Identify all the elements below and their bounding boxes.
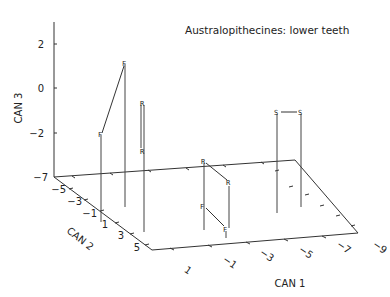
marker-s: S: [274, 109, 278, 117]
can2-tick-label: 5: [134, 242, 140, 253]
can3-tick-label: −2: [29, 128, 44, 139]
can3-axis-label: CAN 3: [13, 93, 24, 124]
chart-canvas: Australopithecines: lower teeth 2 0 −2 −…: [0, 0, 390, 297]
marker-r: R: [201, 158, 206, 166]
group-connector: [102, 66, 124, 133]
floor-right-edge: [295, 160, 358, 233]
floor-front-edge: [152, 233, 358, 250]
can1-tick-label: −5: [297, 243, 315, 260]
can1-tick-label: −9: [371, 238, 389, 255]
can1-tick-label: 1: [182, 264, 194, 277]
can2-tick-label: −3: [67, 196, 82, 207]
can2-axis-label: CAN 2: [65, 225, 96, 253]
can3-tick-label: 0: [38, 83, 44, 94]
can3-tick-label: −7: [33, 172, 48, 183]
can2-tick-label: −5: [51, 184, 66, 195]
chart-title: Australopithecines: lower teeth: [185, 24, 349, 36]
marker-f: F: [223, 226, 227, 234]
can1-tick-label: −1: [221, 253, 239, 270]
marker-f: F: [98, 131, 102, 139]
right-edge-ticks: [275, 170, 355, 226]
group-connector: [206, 208, 224, 226]
can1-tick-label: −3: [258, 246, 276, 263]
can1-axis-label: CAN 1: [275, 278, 306, 289]
floor-back-edge: [54, 160, 295, 177]
can3-tick-label: 2: [38, 39, 44, 50]
marker-f: F: [122, 60, 126, 68]
can2-tick-label: −1: [82, 208, 97, 219]
marker-r: R: [226, 179, 231, 187]
can2-axis: [54, 177, 152, 250]
can2-tick-label: 1: [102, 219, 108, 230]
marker-s: S: [298, 109, 302, 117]
marker-f: F: [200, 203, 204, 211]
can2-tick-label: 3: [118, 230, 124, 241]
can1-tick-label: −7: [335, 238, 353, 255]
